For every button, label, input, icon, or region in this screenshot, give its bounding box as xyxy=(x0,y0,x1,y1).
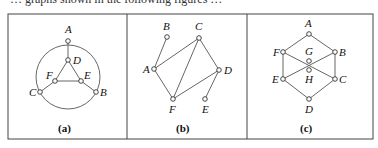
vertex-E xyxy=(281,77,286,82)
vertex-label-D: D xyxy=(223,64,232,76)
caption-b: (b) xyxy=(176,122,190,135)
panel-a: ADFECB xyxy=(29,23,107,109)
vertex-B xyxy=(333,50,338,55)
vertex-label-E: E xyxy=(271,73,279,85)
vertex-F xyxy=(171,97,176,102)
panel-c: AFBGHECD xyxy=(271,17,347,115)
vertex-C xyxy=(197,36,202,41)
vertex-B xyxy=(165,35,170,40)
panel-b: BCADFE xyxy=(142,20,232,115)
graph-figure: ADFECB BCADFE AFBGHECD (a) (b) (c) xyxy=(0,0,378,148)
caption-a: (a) xyxy=(58,122,71,135)
vertex-label-A: A xyxy=(64,23,72,35)
vertex-label-G: G xyxy=(305,45,313,57)
vertex-A xyxy=(152,67,157,72)
vertex-label-E: E xyxy=(83,69,91,81)
vertex-label-A: A xyxy=(142,63,150,75)
vertex-D xyxy=(217,68,222,73)
vertex-label-D: D xyxy=(304,103,313,115)
vertex-label-C: C xyxy=(29,86,37,98)
vertex-H xyxy=(307,68,312,73)
edge-E-B xyxy=(81,81,96,92)
vertex-C xyxy=(333,77,338,82)
vertex-label-F: F xyxy=(168,103,176,115)
vertex-E xyxy=(203,97,208,102)
vertex-label-B: B xyxy=(163,20,170,32)
vertex-D xyxy=(307,97,312,102)
vertex-label-A: A xyxy=(304,17,312,29)
vertex-label-E: E xyxy=(201,103,209,115)
vertex-label-F: F xyxy=(272,46,280,58)
vertex-C xyxy=(38,90,43,95)
vertex-D xyxy=(66,58,71,63)
vertex-F xyxy=(281,50,286,55)
outer-frame xyxy=(8,14,373,139)
caption-c: (c) xyxy=(300,122,313,135)
vertex-A xyxy=(307,32,312,37)
vertex-A xyxy=(66,39,71,44)
vertex-label-B: B xyxy=(100,86,107,98)
edge-A-F xyxy=(154,69,173,99)
vertex-label-B: B xyxy=(339,46,346,58)
vertex-label-F: F xyxy=(45,69,53,81)
vertex-label-H: H xyxy=(304,73,314,85)
vertex-G xyxy=(307,59,312,64)
vertex-E xyxy=(79,79,84,84)
vertex-B xyxy=(94,90,99,95)
vertex-label-C: C xyxy=(339,73,347,85)
vertex-F xyxy=(53,79,58,84)
vertex-label-C: C xyxy=(195,20,203,32)
vertex-label-D: D xyxy=(72,54,81,66)
edge-D-F xyxy=(55,60,68,81)
edge-C-D xyxy=(199,38,219,70)
edge-F-C xyxy=(40,81,55,92)
